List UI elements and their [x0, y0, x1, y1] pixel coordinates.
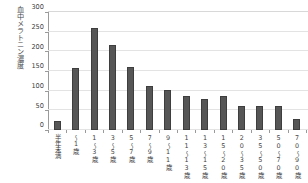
x-tick-label: 20〜35歳 [238, 134, 245, 178]
x-tick-label: 50〜70歳 [275, 134, 282, 178]
bar-cell [195, 12, 213, 130]
x-label-cell: 20〜35歳 [232, 134, 250, 180]
x-tick-mark [159, 130, 160, 133]
x-tick-label: 11〜13歳 [183, 134, 190, 178]
x-tick-mark [103, 130, 104, 133]
x-label-cell: 5〜7歳 [122, 134, 140, 180]
x-tick-mark [85, 130, 86, 133]
x-label-cell: 50〜70歳 [269, 134, 287, 180]
x-tick-label: 半年未満 [54, 134, 61, 158]
x-axis-labels: 半年未満〜1歳1〜3歳3〜5歳5〜7歳7〜9歳9〜11歳11〜13歳13〜15歳… [48, 134, 306, 180]
bar-series [48, 12, 306, 130]
x-tick-label: 3〜5歳 [109, 134, 116, 162]
x-label-cell: 13〜15歳 [195, 134, 213, 180]
x-tick-mark [306, 130, 307, 133]
x-tick-mark [195, 130, 196, 133]
x-tick-label: 35〜50歳 [256, 134, 263, 178]
y-tick-label: 250 [31, 23, 44, 31]
bar [164, 90, 171, 130]
x-tick-label: 13〜15歳 [201, 134, 208, 178]
x-tick-mark [177, 130, 178, 133]
melatonin-bar-chart: 血中メラトニン濃度 050100150200250300 半年未満〜1歳1〜3歳… [0, 0, 308, 183]
x-tick-label: 5〜7歳 [128, 134, 135, 162]
x-label-cell: 70〜90歳 [287, 134, 305, 180]
plot-area: 050100150200250300 [48, 12, 306, 130]
x-label-cell: 35〜50歳 [251, 134, 269, 180]
bar [201, 99, 208, 130]
x-tick-label: 15〜20歳 [220, 134, 227, 178]
bar [183, 96, 190, 130]
x-tick-label: 70〜90歳 [293, 134, 300, 178]
bar [72, 68, 79, 130]
x-axis-ticks [48, 130, 306, 133]
x-tick-label: 〜1歳 [72, 134, 79, 154]
x-label-cell: 9〜11歳 [159, 134, 177, 180]
y-axis-title: 血中メラトニン濃度 [2, 6, 24, 130]
x-label-cell: 11〜13歳 [177, 134, 195, 180]
bar [220, 96, 227, 130]
x-label-cell: 15〜20歳 [214, 134, 232, 180]
bar-cell [48, 12, 66, 130]
bar-cell [103, 12, 121, 130]
bar-cell [122, 12, 140, 130]
y-tick-label: 50 [36, 102, 44, 110]
x-tick-mark [140, 130, 141, 133]
x-tick-mark [48, 130, 49, 133]
bar-cell [287, 12, 305, 130]
x-tick-mark [251, 130, 252, 133]
x-tick-mark [269, 130, 270, 133]
y-axis-title-text: 血中メラトニン濃度 [17, 6, 24, 69]
bar-cell [214, 12, 232, 130]
bar [238, 106, 245, 130]
x-tick-label: 9〜11歳 [164, 134, 171, 170]
y-tick-label: 0 [40, 121, 44, 129]
bar-cell [85, 12, 103, 130]
bar-cell [159, 12, 177, 130]
bar [293, 119, 300, 130]
bar-cell [269, 12, 287, 130]
bar [256, 106, 263, 130]
x-tick-label: 1〜3歳 [91, 134, 98, 162]
bar [127, 67, 134, 130]
x-tick-mark [232, 130, 233, 133]
x-tick-label: 7〜9歳 [146, 134, 153, 162]
x-label-cell: 1〜3歳 [85, 134, 103, 180]
x-tick-mark [288, 130, 289, 133]
y-tick-label: 200 [31, 43, 44, 51]
x-label-cell: 7〜9歳 [140, 134, 158, 180]
bar-cell [140, 12, 158, 130]
bar [109, 45, 116, 130]
x-label-cell: 〜1歳 [66, 134, 84, 180]
x-label-cell: 3〜5歳 [103, 134, 121, 180]
bar-cell [177, 12, 195, 130]
y-tick-label: 100 [31, 82, 44, 90]
bar-cell [232, 12, 250, 130]
bar [54, 121, 61, 130]
y-tick-label: 300 [31, 3, 44, 11]
x-tick-mark [66, 130, 67, 133]
bar [91, 28, 98, 130]
x-label-cell: 半年未満 [48, 134, 66, 180]
bar [146, 86, 153, 130]
x-tick-mark [214, 130, 215, 133]
bar [275, 106, 282, 130]
y-tick-label: 150 [31, 62, 44, 70]
x-tick-mark [122, 130, 123, 133]
bar-cell [251, 12, 269, 130]
bar-cell [66, 12, 84, 130]
